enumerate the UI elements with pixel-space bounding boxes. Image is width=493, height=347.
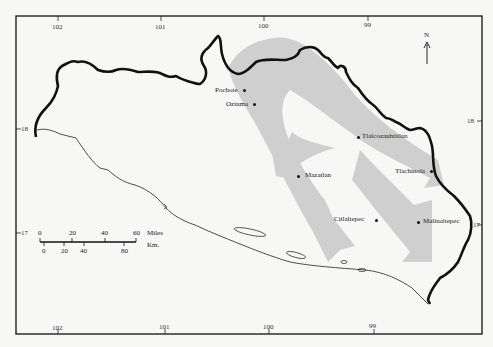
- scale-km-unit: Km.: [147, 242, 159, 249]
- top-ticks: [58, 16, 368, 21]
- town-marker-oztuma: [253, 103, 256, 106]
- bottom-ticks: [58, 329, 374, 334]
- scale-miles-tick: 0: [38, 230, 42, 237]
- longitude-label-bottom: 100: [263, 324, 274, 331]
- longitude-label-top: 100: [258, 23, 269, 30]
- latitude-label-right: 18: [467, 118, 474, 125]
- scale-miles-tick: 40: [101, 230, 108, 237]
- town-marker-citlaltepec: [375, 219, 378, 222]
- town-marker-mazatlan: [297, 175, 300, 178]
- town-marker-tlachinola: [430, 170, 433, 173]
- longitude-label-bottom: 102: [52, 325, 63, 332]
- town-label-mazatlan: Mazatlan: [305, 172, 331, 179]
- scale-miles-tick: 60: [133, 230, 140, 237]
- scale-bar: [40, 238, 136, 246]
- scale-miles-unit: Miles: [147, 230, 163, 237]
- town-label-tlachinola: Tlachinola: [395, 168, 425, 175]
- longitude-label-top: 99: [364, 22, 371, 29]
- latitude-label-left: 17: [21, 230, 28, 237]
- scale-km-tick: 40: [80, 248, 87, 255]
- town-label-oztuma: Oztuma: [226, 101, 248, 108]
- scale-miles-tick: 20: [69, 230, 76, 237]
- longitude-label-top: 101: [155, 24, 166, 31]
- latitude-label-left: 18: [21, 126, 28, 133]
- town-marker-pochote: [243, 89, 246, 92]
- longitude-label-top: 102: [52, 24, 63, 31]
- town-label-malinaltepec: Malinaltepec: [423, 218, 460, 225]
- scale-km-tick: 20: [61, 248, 68, 255]
- latitude-label-right: 17: [473, 222, 480, 229]
- migration-flow-arrows: [228, 38, 444, 262]
- town-label-citlaltepec: Citlaltepec: [334, 216, 364, 223]
- town-label-pochote: Pochote: [215, 87, 238, 94]
- longitude-label-bottom: 99: [369, 323, 376, 330]
- coastline: [37, 129, 428, 304]
- scale-km-tick: 0: [42, 248, 46, 255]
- map-figure: 102 101 100 99 102 101 100 99 18 17 18 1…: [0, 0, 493, 347]
- north-arrow-icon: [424, 42, 430, 64]
- town-label-tlalcozauhtitlan: Tlalcozauhtitlan: [362, 133, 407, 140]
- town-marker-tlalcozauhtitlan: [357, 136, 360, 139]
- north-label: N: [424, 32, 429, 39]
- scale-km-tick: 80: [121, 248, 128, 255]
- town-marker-malinaltepec: [417, 221, 420, 224]
- longitude-label-bottom: 101: [159, 324, 170, 331]
